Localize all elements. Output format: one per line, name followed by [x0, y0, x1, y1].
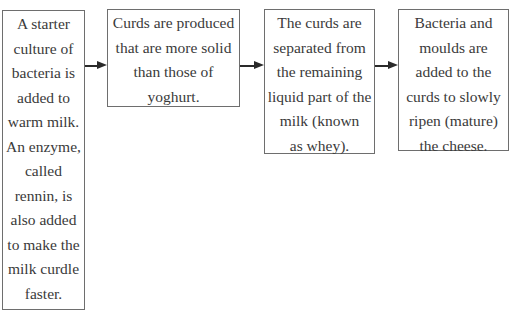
step-1-text-line: also added: [3, 208, 84, 233]
step-2-text-line: yoghurt.: [108, 85, 239, 110]
arrow-right-icon: [85, 65, 107, 67]
step-3-text-line: The curds are: [265, 11, 374, 36]
step-1-text-line: faster.: [3, 282, 84, 307]
step-2-curds-produced-box: Curds are produced that are more solid t…: [107, 9, 240, 107]
step-3-text-line: the remaining: [265, 60, 374, 85]
step-1-text-line: rennin, is: [3, 184, 84, 209]
step-4-text-line: Bacteria and: [399, 11, 508, 36]
step-1-text-line: called: [3, 159, 84, 184]
step-4-text-line: moulds are: [399, 36, 508, 61]
step-4-text-line: added to the: [399, 60, 508, 85]
step-1-text-line: A starter: [3, 12, 84, 37]
step-3-text-line: as whey).: [265, 134, 374, 159]
step-1-text-line: milk curdle: [3, 257, 84, 282]
step-4-text-line: curds to slowly: [399, 85, 508, 110]
step-1-text-line: An enzyme,: [3, 135, 84, 160]
step-1-text-line: added to: [3, 86, 84, 111]
arrow-right-icon: [375, 65, 398, 67]
arrow-right-icon: [240, 65, 264, 67]
step-2-text-line: Curds are produced: [108, 11, 239, 36]
step-2-text-line: than those of: [108, 60, 239, 85]
step-1-starter-culture-box: A starter culture of bacteria is added t…: [2, 10, 85, 310]
step-4-text-line: ripen (mature): [399, 109, 508, 134]
step-1-text-line: warm milk.: [3, 110, 84, 135]
step-1-text-line: to make the: [3, 233, 84, 258]
step-2-text-line: that are more solid: [108, 36, 239, 61]
step-4-ripen-cheese-box: Bacteria and moulds are added to the cur…: [398, 9, 509, 151]
step-3-separate-whey-box: The curds are separated from the remaini…: [264, 9, 375, 154]
step-1-text-line: culture of: [3, 37, 84, 62]
step-3-text-line: separated from: [265, 36, 374, 61]
step-1-text-line: bacteria is: [3, 61, 84, 86]
step-3-text-line: milk (known: [265, 109, 374, 134]
step-3-text-line: liquid part of the: [265, 85, 374, 110]
step-4-text-line: the cheese.: [399, 134, 508, 159]
